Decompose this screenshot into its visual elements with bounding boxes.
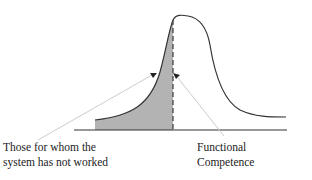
label-functional-competence: Functional Competence bbox=[197, 140, 254, 170]
label-line: Functional bbox=[197, 140, 254, 155]
shaded-region bbox=[95, 20, 173, 130]
distribution-curve bbox=[95, 15, 286, 120]
label-not-worked: Those for whom the system has not worked bbox=[3, 140, 108, 170]
pointer-line-right bbox=[178, 78, 224, 136]
arrowhead-right-icon bbox=[173, 73, 180, 79]
label-line: Those for whom the bbox=[3, 140, 108, 155]
label-line: Competence bbox=[197, 155, 254, 170]
label-line: system has not worked bbox=[3, 155, 108, 170]
